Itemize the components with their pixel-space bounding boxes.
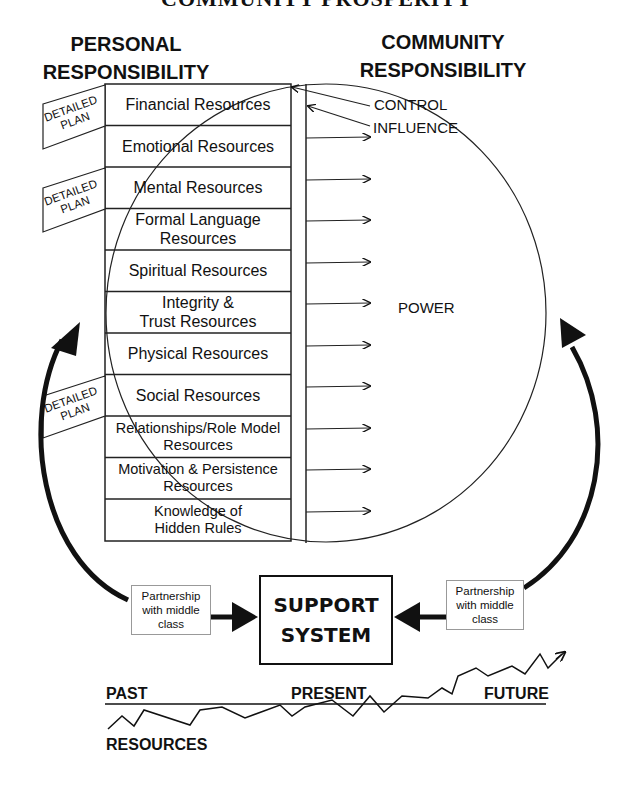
resource-label: Physical Resources bbox=[128, 344, 269, 363]
support-system-box: SUPPORT SYSTEM bbox=[259, 575, 393, 665]
influence-pointer-arrow bbox=[308, 106, 370, 126]
resource-label: Mental Resources bbox=[134, 178, 263, 197]
resource-label: Hidden Rules bbox=[154, 520, 241, 537]
influence-label: INFLUENCE bbox=[373, 119, 458, 136]
right-cycle-arrowhead bbox=[560, 318, 586, 348]
right-support-arrowhead bbox=[394, 602, 420, 632]
partnership-line: Partnership bbox=[449, 584, 521, 598]
partnership-line: with middle bbox=[134, 603, 208, 617]
resource-integrity-trust: Integrity & Trust Resources bbox=[105, 292, 291, 333]
resource-relationships-role-model: Relationships/Role Model Resources bbox=[105, 416, 291, 457]
trend-arrow-tip bbox=[556, 652, 565, 659]
resource-mental: Mental Resources bbox=[105, 167, 291, 208]
resource-hidden-rules: Knowledge of Hidden Rules bbox=[105, 499, 291, 540]
power-label: POWER bbox=[398, 299, 455, 316]
resource-label: Financial Resources bbox=[126, 95, 271, 114]
partnership-left: Partnership with middle class bbox=[131, 585, 211, 635]
resource-formal-language: Formal Language Resources bbox=[105, 209, 291, 250]
resource-label: Spiritual Resources bbox=[129, 261, 268, 280]
resource-physical: Physical Resources bbox=[105, 333, 291, 374]
timeline-resources-label: RESOURCES bbox=[106, 736, 207, 754]
power-arrows bbox=[306, 137, 370, 512]
timeline-past: PAST bbox=[106, 685, 147, 703]
resource-label: Trust Resources bbox=[140, 312, 257, 331]
resource-motivation-persistence: Motivation & Persistence Resources bbox=[105, 458, 291, 499]
partnership-right: Partnership with middle class bbox=[446, 580, 524, 630]
resource-emotional: Emotional Resources bbox=[105, 126, 291, 167]
resource-label: Resources bbox=[163, 437, 232, 454]
support-line: SUPPORT bbox=[273, 590, 378, 620]
partnership-line: class bbox=[449, 612, 521, 626]
resource-label: Motivation & Persistence bbox=[118, 461, 278, 478]
partnership-line: class bbox=[134, 617, 208, 631]
partnership-line: Partnership bbox=[134, 589, 208, 603]
resource-social: Social Resources bbox=[105, 375, 291, 416]
resource-label: Relationships/Role Model bbox=[116, 420, 280, 437]
resource-label: Emotional Resources bbox=[122, 137, 274, 156]
resource-label: Knowledge of bbox=[154, 503, 242, 520]
support-line: SYSTEM bbox=[281, 620, 372, 650]
partnership-line: with middle bbox=[449, 598, 521, 612]
resource-financial: Financial Resources bbox=[105, 84, 291, 125]
left-support-arrowhead bbox=[232, 602, 258, 632]
resource-label: Resources bbox=[160, 229, 236, 248]
resource-label: Resources bbox=[163, 478, 232, 495]
resource-label: Social Resources bbox=[136, 386, 261, 405]
resource-label: Integrity & bbox=[162, 293, 234, 312]
control-label: CONTROL bbox=[374, 96, 447, 113]
resource-spiritual: Spiritual Resources bbox=[105, 250, 291, 291]
timeline-present: PRESENT bbox=[291, 685, 367, 703]
control-pointer-arrow bbox=[292, 87, 370, 106]
resource-label: Formal Language bbox=[135, 210, 260, 229]
timeline-future: FUTURE bbox=[484, 685, 549, 703]
